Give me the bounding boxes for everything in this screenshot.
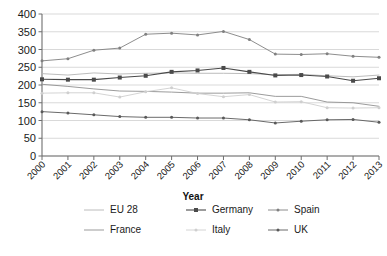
data-point-marker [92, 91, 95, 94]
data-point-marker [222, 117, 225, 120]
data-point-marker [144, 33, 147, 36]
data-point-marker [92, 49, 95, 52]
chart-container: 400350300250200150100500 200020012002200… [0, 0, 387, 256]
data-point-marker [118, 96, 121, 99]
data-point-marker [377, 76, 381, 80]
data-point-marker [222, 95, 225, 98]
data-point-marker [144, 90, 147, 93]
legend-marker [277, 209, 280, 212]
data-point-marker [196, 117, 199, 120]
legend-marker [195, 229, 198, 232]
legend-marker [277, 229, 280, 232]
legend-label: UK [294, 224, 308, 235]
legend-label: EU 28 [110, 204, 138, 215]
data-point-marker [248, 118, 251, 121]
legend-label: Italy [212, 224, 230, 235]
data-point-marker [352, 107, 355, 110]
data-point-marker [248, 93, 251, 96]
data-point-marker [221, 66, 225, 70]
data-point-marker [273, 73, 277, 77]
data-point-marker [300, 100, 303, 103]
data-point-marker [222, 30, 225, 33]
data-point-marker [118, 47, 121, 50]
data-point-marker [196, 33, 199, 36]
data-point-marker [41, 110, 44, 113]
data-point-marker [378, 121, 381, 124]
y-tick-label: 100 [18, 115, 36, 127]
data-point-marker [41, 92, 44, 95]
data-point-marker [378, 56, 381, 59]
data-point-marker [170, 70, 174, 74]
y-tick-label: 300 [18, 44, 36, 56]
data-point-marker [248, 38, 251, 41]
data-point-marker [247, 70, 251, 74]
data-point-marker [41, 59, 44, 62]
legend-label: Spain [294, 204, 320, 215]
data-point-marker [351, 79, 355, 83]
y-tick-label: 250 [18, 61, 36, 73]
data-point-marker [300, 53, 303, 56]
y-tick-label: 200 [18, 79, 36, 91]
data-point-marker [274, 101, 277, 104]
data-point-marker [170, 32, 173, 35]
line-chart: 400350300250200150100500 200020012002200… [0, 0, 387, 256]
data-point-marker [326, 106, 329, 109]
data-point-marker [299, 73, 303, 77]
data-point-marker [66, 78, 70, 82]
legend-marker [194, 208, 198, 212]
data-point-marker [66, 112, 69, 115]
data-point-marker [144, 116, 147, 119]
data-point-marker [196, 92, 199, 95]
data-point-marker [274, 121, 277, 124]
data-point-marker [326, 118, 329, 121]
data-point-marker [118, 115, 121, 118]
data-point-marker [66, 57, 69, 60]
data-point-marker [196, 68, 200, 72]
x-axis-title: Year [182, 191, 203, 202]
data-point-marker [378, 106, 381, 109]
data-point-marker [300, 120, 303, 123]
data-point-marker [274, 53, 277, 56]
y-tick-label: 0 [30, 150, 36, 162]
y-tick-label: 350 [18, 26, 36, 38]
data-point-marker [326, 52, 329, 55]
y-tick-label: 50 [24, 132, 36, 144]
data-point-marker [325, 74, 329, 78]
data-point-marker [92, 113, 95, 116]
legend-label: Germany [212, 204, 253, 215]
legend-label: France [110, 224, 142, 235]
y-tick-label: 400 [18, 8, 36, 20]
data-point-marker [352, 118, 355, 121]
data-point-marker [40, 77, 44, 81]
data-point-marker [170, 116, 173, 119]
data-point-marker [118, 76, 122, 80]
data-point-marker [170, 86, 173, 89]
data-point-marker [144, 74, 148, 78]
data-point-marker [92, 78, 96, 82]
data-point-marker [66, 91, 69, 94]
plot-area-background [0, 0, 387, 256]
y-tick-label: 150 [18, 97, 36, 109]
data-point-marker [352, 55, 355, 58]
